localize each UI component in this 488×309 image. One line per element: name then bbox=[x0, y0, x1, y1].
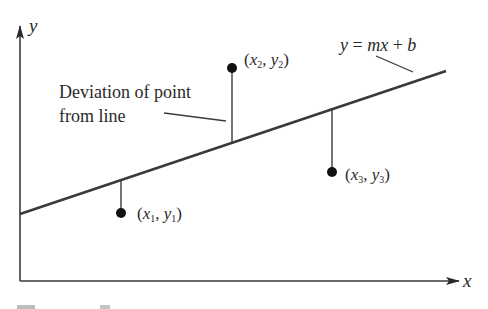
x-axis-label: x bbox=[462, 270, 472, 291]
data-point-1: (x1, y1) bbox=[116, 180, 182, 224]
line-equation-label: y = mx + b bbox=[338, 35, 416, 55]
point-label-2: (x2, y2) bbox=[244, 50, 289, 70]
y-axis-label: y bbox=[27, 15, 38, 36]
point-marker-3 bbox=[327, 167, 337, 177]
deviation-annotation-line1: Deviation of point bbox=[59, 82, 191, 102]
point-label-3: (x3, y3) bbox=[345, 165, 390, 185]
deviation-annotation-line2: from line bbox=[59, 106, 125, 126]
equation-leader-line bbox=[376, 56, 413, 72]
cropped-caption-fragment bbox=[17, 305, 35, 309]
deviation-leader-line bbox=[164, 113, 226, 121]
data-point-2: (x2, y2) bbox=[227, 50, 289, 143]
point-marker-2 bbox=[227, 63, 237, 73]
point-label-1: (x1, y1) bbox=[137, 204, 182, 224]
cropped-caption-fragment-2 bbox=[100, 305, 110, 309]
data-point-3: (x3, y3) bbox=[327, 108, 390, 185]
point-marker-1 bbox=[116, 208, 126, 218]
regression-diagram: y x y = mx + b Deviation of point from l… bbox=[0, 0, 488, 309]
